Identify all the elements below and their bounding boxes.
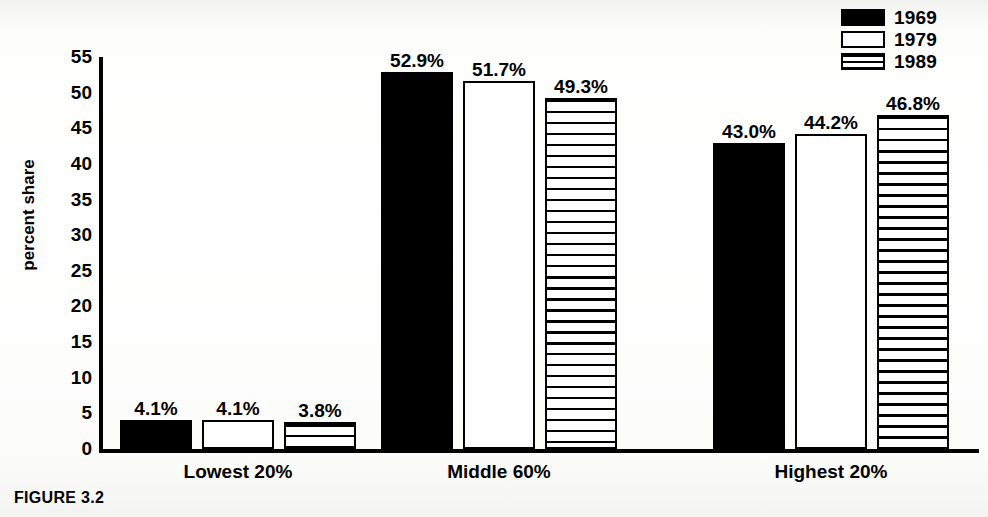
bar-value-label: 4.1% <box>216 399 259 418</box>
bar-value-label: 46.8% <box>886 94 940 113</box>
y-axis-tick-labels: 0510152025303540455055 <box>44 0 92 517</box>
y-tick-55: 55 <box>46 47 92 66</box>
bar-1969-middle-60[interactable]: 52.9% <box>381 72 453 449</box>
empty-white-swatch-icon <box>841 31 885 48</box>
bar-1979-middle-60[interactable]: 51.7% <box>463 81 535 449</box>
bar-1969-lowest-20[interactable]: 4.1% <box>120 420 192 449</box>
x-axis-line <box>99 449 979 453</box>
x-category-label-1: Lowest 20% <box>128 462 348 481</box>
y-tick-50: 50 <box>46 83 92 102</box>
legend-entry-1979[interactable]: 1979 <box>841 28 981 50</box>
bar-value-label: 43.0% <box>722 122 776 141</box>
y-tick-30: 30 <box>46 225 92 244</box>
y-tick-25: 25 <box>46 261 92 280</box>
y-tick-10: 10 <box>46 368 92 387</box>
y-tick-35: 35 <box>46 190 92 209</box>
bar-1989-highest-20[interactable]: 46.8% <box>877 115 949 449</box>
bar-value-label: 3.8% <box>298 401 341 420</box>
y-tick-45: 45 <box>46 118 92 137</box>
y-tick-0: 0 <box>46 439 92 458</box>
plot-area: 4.1%4.1%3.8%52.9%51.7%49.3%43.0%44.2%46.… <box>103 57 979 449</box>
x-category-label-3: Highest 20% <box>721 462 941 481</box>
legend-entry-1969[interactable]: 1969 <box>841 6 981 28</box>
bar-value-label: 44.2% <box>804 113 858 132</box>
legend-label-1979: 1979 <box>894 30 937 49</box>
bar-1979-lowest-20[interactable]: 4.1% <box>202 420 274 449</box>
y-tick-15: 15 <box>46 332 92 351</box>
figure-caption: FIGURE 3.2 <box>14 489 104 507</box>
bar-1989-middle-60[interactable]: 49.3% <box>545 98 617 449</box>
bar-1979-highest-20[interactable]: 44.2% <box>795 134 867 449</box>
y-axis-title: percent share <box>19 145 39 285</box>
y-tick-40: 40 <box>46 154 92 173</box>
bar-1969-highest-20[interactable]: 43.0% <box>713 143 785 449</box>
bar-value-label: 49.3% <box>554 77 608 96</box>
solid-black-swatch-icon <box>841 9 885 26</box>
x-category-label-2: Middle 60% <box>389 462 609 481</box>
bar-value-label: 52.9% <box>390 51 444 70</box>
bar-value-label: 4.1% <box>134 399 177 418</box>
bar-value-label: 51.7% <box>472 60 526 79</box>
y-tick-5: 5 <box>46 403 92 422</box>
y-tick-20: 20 <box>46 296 92 315</box>
figure-container: 1969 1979 1989 percent share 05101520253… <box>0 0 988 517</box>
bar-1989-lowest-20[interactable]: 3.8% <box>284 422 356 449</box>
legend-label-1969: 1969 <box>894 8 937 27</box>
